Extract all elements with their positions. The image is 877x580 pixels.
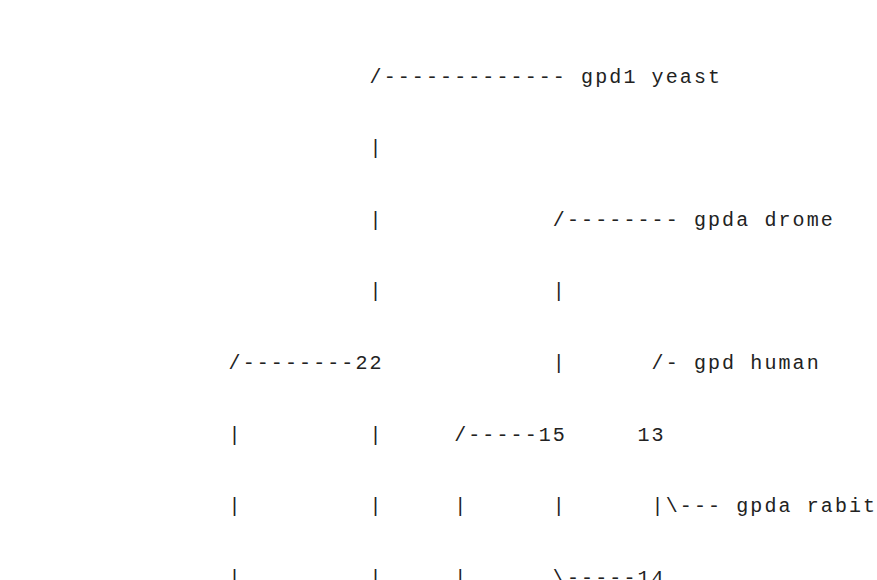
tree-row-gpd1-yeast: /------------- gpd1 yeast bbox=[17, 66, 877, 90]
tree-row-gpda-drome: | /-------- gpda drome bbox=[17, 209, 877, 233]
tree-row-node-15-node-13: | | /-----15 13 bbox=[17, 424, 877, 448]
phylogenetic-tree: /------------- gpd1 yeast | | /-------- … bbox=[17, 18, 877, 580]
tree-row-gpda-rabit: | | | | |\--- gpda rabit bbox=[17, 495, 877, 519]
tree-row-branch: | bbox=[17, 137, 877, 161]
tree-row-branch: | | bbox=[17, 280, 877, 304]
tree-row-node-22-gpd-human: /--------22 | /- gpd human bbox=[17, 352, 877, 376]
tree-row-node-14: | | | \-----14 bbox=[17, 567, 877, 580]
